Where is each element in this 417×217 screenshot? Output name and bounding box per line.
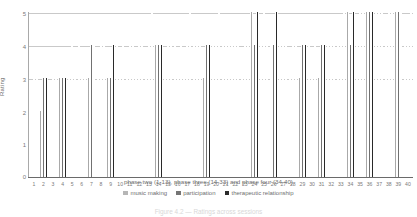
bar — [157, 45, 159, 177]
bar-group — [298, 12, 308, 177]
bar — [174, 45, 176, 177]
bar — [205, 45, 207, 177]
bar — [189, 12, 191, 177]
bar — [388, 12, 390, 177]
bar — [275, 12, 277, 177]
bar-group — [125, 12, 135, 177]
bar-group — [403, 12, 413, 177]
bar — [81, 78, 83, 177]
bar-group — [87, 12, 97, 177]
bar — [385, 45, 387, 177]
bar-group — [240, 12, 250, 177]
legend-label: music making — [130, 190, 167, 196]
bar — [49, 111, 51, 177]
chart-plot-area: Rating 5 4 3 2 1 0 123456789101112131415… — [0, 0, 417, 190]
bar — [215, 45, 217, 177]
bar — [228, 45, 230, 177]
figure-container: Rating 5 4 3 2 1 0 123456789101112131415… — [0, 0, 417, 217]
bar — [170, 45, 172, 177]
bar — [74, 78, 76, 177]
bar-group — [355, 12, 365, 177]
bar-group — [77, 12, 87, 177]
bar — [289, 78, 291, 177]
figure-caption: Figure 4.2 — Ratings across sessions — [0, 208, 417, 217]
bar — [394, 12, 396, 177]
bar — [208, 45, 210, 177]
bar — [349, 45, 351, 177]
bar — [97, 78, 99, 177]
bar-group — [202, 12, 212, 177]
bar — [272, 45, 274, 177]
bar-group — [374, 12, 384, 177]
bar — [129, 45, 131, 177]
legend-label: participation — [183, 190, 215, 196]
legend-item[interactable]: music making — [123, 190, 167, 196]
bar — [260, 45, 262, 177]
bar-group — [211, 12, 221, 177]
bar — [151, 12, 153, 177]
bar — [317, 78, 319, 177]
bar — [84, 78, 86, 177]
bar — [362, 12, 364, 177]
bar — [231, 45, 233, 177]
bar — [106, 78, 108, 177]
bar — [180, 45, 182, 177]
bar-group — [230, 12, 240, 177]
bar — [343, 12, 345, 177]
bar — [52, 78, 54, 177]
bar — [30, 111, 32, 177]
bar — [78, 45, 80, 177]
bar-group — [326, 12, 336, 177]
bar — [100, 45, 102, 177]
bar-group — [307, 12, 317, 177]
bar-group — [278, 12, 288, 177]
bar — [71, 45, 73, 177]
bar — [135, 78, 137, 177]
bar — [183, 78, 185, 177]
bar — [119, 78, 121, 177]
bar — [58, 78, 60, 177]
bar — [365, 12, 367, 177]
legend-label: therapeutic relationship — [232, 190, 294, 196]
x-axis-title: phase two (1-13), phase three (14-33) an… — [0, 178, 417, 185]
bar — [400, 12, 402, 177]
bar-group — [221, 12, 231, 177]
bar — [327, 45, 329, 177]
legend-item[interactable]: therapeutic relationship — [225, 190, 294, 196]
bar — [145, 78, 147, 177]
bar-group — [48, 12, 58, 177]
bar — [285, 45, 287, 177]
bar — [36, 78, 38, 177]
bar — [116, 45, 118, 177]
bar-group — [317, 12, 327, 177]
bar-group — [183, 12, 193, 177]
bar — [68, 78, 70, 177]
legend-swatch-icon — [123, 191, 128, 196]
bar — [346, 12, 348, 177]
bar — [270, 45, 272, 177]
bar-group — [192, 12, 202, 177]
bar — [186, 45, 188, 177]
bar — [42, 78, 44, 177]
bar — [292, 45, 294, 177]
y-axis-tick-5: 5 — [14, 11, 26, 17]
bar — [148, 45, 150, 177]
bar — [256, 12, 258, 177]
bar — [333, 45, 335, 177]
bar — [282, 45, 284, 177]
legend-item[interactable]: participation — [176, 190, 215, 196]
bar — [381, 12, 383, 177]
bar-group — [144, 12, 154, 177]
bar — [330, 45, 332, 177]
bar — [138, 45, 140, 177]
bar — [250, 12, 252, 177]
bar — [378, 12, 380, 177]
bar-group — [96, 12, 106, 177]
bar — [263, 12, 265, 177]
bar-group — [135, 12, 145, 177]
bar — [126, 78, 128, 177]
bar — [298, 78, 300, 177]
bar — [39, 111, 41, 177]
bar-group — [154, 12, 164, 177]
bar — [407, 45, 409, 177]
